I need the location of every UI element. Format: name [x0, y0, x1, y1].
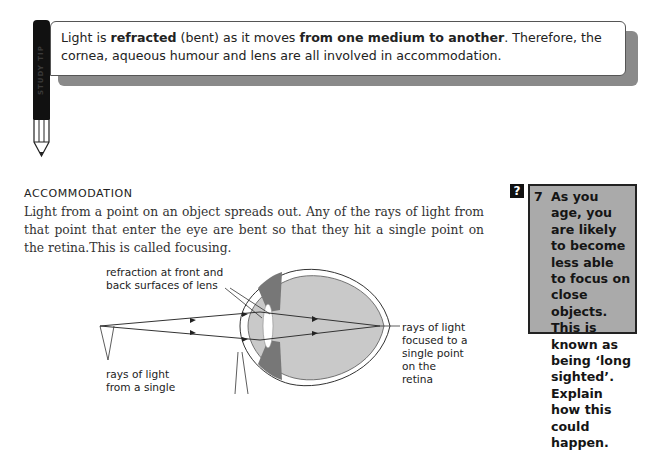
- question-mark-icon: ?: [510, 184, 524, 198]
- pencil-icon: STUDY TIP: [33, 20, 50, 120]
- rays-focused-label: rays of light focused to a single point …: [402, 321, 470, 386]
- tip-text-bold-refracted: refracted: [111, 30, 177, 45]
- question-number: 7: [534, 189, 543, 205]
- pencil-label: STUDY TIP: [33, 26, 50, 114]
- refraction-label: refraction at front and back surfaces of…: [106, 266, 241, 292]
- pencil-tip-icon: [33, 120, 50, 158]
- tip-text-2: (bent) as it moves: [176, 30, 299, 45]
- question-box: 7 As you age, you are likely to become l…: [528, 184, 637, 334]
- tip-text-bold-medium: from one medium to another: [299, 30, 504, 45]
- rays-source-label: rays of light from a single: [106, 368, 176, 394]
- question-text: As you age, you are likely to become les…: [551, 189, 631, 452]
- study-tip-box: Light is refracted (bent) as it moves fr…: [50, 21, 626, 76]
- section-heading: ACCOMMODATION: [24, 187, 133, 200]
- tip-text-1: Light is: [61, 30, 111, 45]
- eye-focusing-diagram: refraction at front and back surfaces of…: [90, 260, 400, 394]
- body-paragraph: Light from a point on an object spreads …: [24, 203, 484, 257]
